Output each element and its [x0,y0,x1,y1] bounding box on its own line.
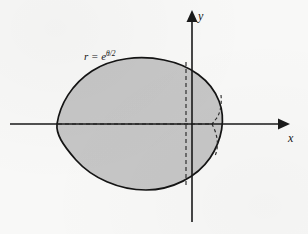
curve-equation-exponent: θ/2 [106,49,116,58]
y-axis-arrowhead-icon [187,10,198,22]
curve-equation-label: r = eθ/2 [84,49,116,62]
figure-canvas: x y r = eθ/2 [0,0,308,234]
x-axis-arrowhead-icon [278,119,290,130]
polar-curve-figure: x y r = eθ/2 [0,0,308,234]
x-axis-label: x [287,131,294,145]
curve-equation-base: r = e [84,50,106,62]
y-axis-label: y [197,9,204,23]
